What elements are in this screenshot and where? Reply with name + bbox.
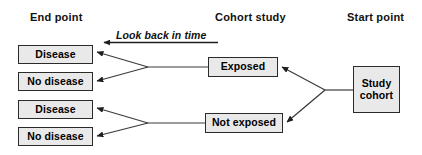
column-label-end-point: End point (30, 11, 83, 23)
column-label-cohort-study: Cohort study (215, 11, 286, 23)
node-not-exposed[interactable]: Not exposed (205, 113, 283, 133)
edge-not-exposed-to-disease (97, 108, 148, 123)
edge-cohort-to-exposed (282, 67, 325, 90)
node-outcome-disease-exposed[interactable]: Disease (18, 45, 93, 64)
look-back-in-time-label: Look back in time (116, 29, 206, 41)
cohort-study-diagram: End point Cohort study Start point Look … (0, 0, 422, 155)
node-outcome-no-disease-exposed[interactable]: No disease (18, 72, 93, 91)
edge-not-exposed-to-no-disease (97, 123, 148, 136)
column-label-start-point: Start point (347, 11, 404, 23)
node-outcome-no-disease-not-exposed[interactable]: No disease (18, 127, 93, 146)
edge-exposed-to-disease (97, 52, 148, 67)
node-exposed[interactable]: Exposed (208, 57, 278, 77)
edge-cohort-to-not-exposed (287, 90, 325, 122)
node-study-cohort[interactable]: Study cohort (353, 66, 400, 113)
node-outcome-disease-not-exposed[interactable]: Disease (18, 100, 93, 119)
edge-exposed-to-no-disease (97, 67, 148, 81)
